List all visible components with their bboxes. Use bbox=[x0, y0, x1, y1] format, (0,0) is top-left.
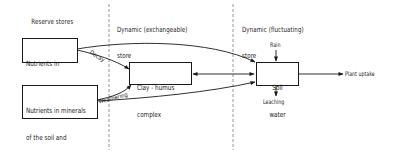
edge-label-rain: Rain bbox=[270, 41, 280, 48]
nutrient-cycle-diagram: Reserve stores Dynamic (exchangeable) st… bbox=[0, 0, 407, 158]
node-soil-water-line2: water bbox=[262, 110, 293, 119]
node-clay-humus-line1: Clay - humus bbox=[137, 83, 182, 92]
edge-label-leaching: Leaching bbox=[263, 98, 284, 105]
node-soil-water: Soil water bbox=[256, 62, 299, 86]
column-heading-reserve: Reserve stores bbox=[24, 9, 73, 35]
node-plant-tissue: Nutrients in plant tissue bbox=[22, 38, 78, 63]
node-clay-humus-line2: complex bbox=[137, 110, 182, 119]
column-heading-fluctuating-line2: store bbox=[242, 52, 304, 61]
node-minerals-line2: of the soil and bbox=[26, 133, 86, 142]
node-minerals-line1: Nutrients in minerals bbox=[26, 106, 86, 115]
node-soil-water-line1: Soil bbox=[262, 83, 293, 92]
node-minerals: Nutrients in minerals of the soil and pa… bbox=[22, 85, 98, 119]
column-heading-exchangeable-line2: store bbox=[117, 52, 188, 61]
column-heading-reserve-line1: Reserve stores bbox=[31, 17, 73, 26]
edge-label-plant-uptake: Plant uptake bbox=[345, 70, 375, 77]
column-heading-fluctuating-line1: Dynamic (fluctuating) bbox=[242, 26, 304, 35]
node-plant-tissue-line1: Nutrients in bbox=[26, 59, 68, 68]
node-clay-humus-complex: Clay - humus complex bbox=[129, 62, 192, 85]
column-heading-exchangeable-line1: Dynamic (exchangeable) bbox=[117, 26, 188, 35]
